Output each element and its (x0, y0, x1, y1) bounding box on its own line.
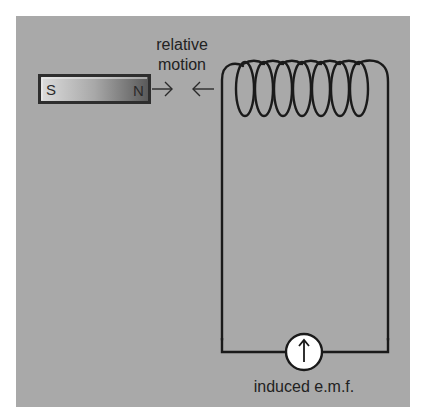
induced-emf-label: induced e.m.f. (254, 378, 355, 395)
south-pole-label: S (46, 81, 56, 98)
relative-motion-label-line1: relative (156, 36, 208, 53)
left-arrow-icon (193, 82, 214, 96)
galvanometer-icon (286, 334, 322, 370)
relative-motion-label-line2: motion (158, 56, 206, 73)
coil (222, 61, 388, 340)
right-arrow-icon (152, 82, 172, 96)
north-pole-label: N (133, 82, 144, 99)
induction-diagram: S N relative motion (0, 0, 422, 418)
bar-magnet: S N (38, 74, 151, 104)
